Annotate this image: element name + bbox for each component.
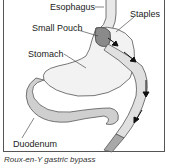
label-duodenum: Duodenum — [13, 139, 57, 149]
jejunum-shape — [104, 134, 124, 152]
label-staples: Staples — [130, 9, 160, 19]
label-esophagus: Esophagus — [50, 2, 95, 12]
figure-caption: Roux-en-Y gastric bypass — [4, 155, 95, 165]
label-small-pouch: Small Pouch — [32, 23, 83, 33]
label-stomach: Stomach — [28, 49, 64, 59]
esophagus-shape — [100, 0, 116, 30]
small-pouch-shape — [95, 28, 111, 47]
